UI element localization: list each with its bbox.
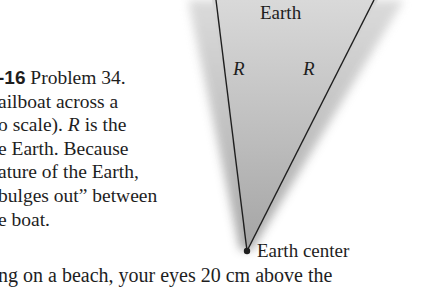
radius-label-left: R bbox=[232, 58, 245, 79]
earth-center-dot bbox=[244, 248, 250, 254]
caption-line-1: -16 Problem 34. bbox=[0, 66, 198, 90]
radius-label-right: R bbox=[302, 58, 315, 79]
earth-center-label: Earth center bbox=[257, 240, 350, 261]
figure-number: -16 bbox=[0, 67, 25, 88]
radius-symbol: R bbox=[68, 114, 80, 135]
caption-line-4: e Earth. Because bbox=[0, 137, 198, 161]
caption-line-2: ailboat across a bbox=[0, 90, 198, 114]
caption-line-6: bulges out” between bbox=[0, 184, 198, 208]
earth-label: Earth bbox=[260, 2, 302, 23]
caption-line-5: ature of the Earth, bbox=[0, 160, 198, 184]
figure-caption: -16 Problem 34. ailboat across a o scale… bbox=[0, 66, 198, 231]
caption-line-3: o scale). R is the bbox=[0, 113, 198, 137]
caption-line-7: e boat. bbox=[0, 208, 198, 232]
body-text-partial-line: ng on a beach, your eyes 20 cm above the bbox=[0, 263, 332, 287]
